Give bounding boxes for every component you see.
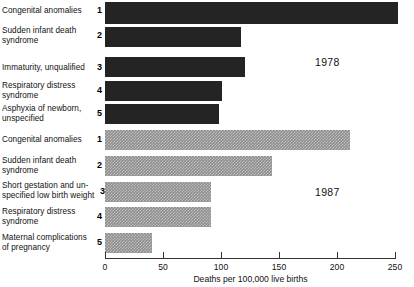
x-tick-0 [105,252,106,258]
rank-number-1987-3: 3 [95,186,105,196]
x-tick-150 [279,252,280,258]
category-label-1987-1: Congenital anomalies [2,135,90,145]
bar-1987-3 [105,182,211,202]
bar-1978-1 [105,2,398,24]
rank-number-1978-1: 1 [92,5,102,15]
rank-number-1978-4: 4 [92,85,102,95]
x-tick-label-100: 100 [206,262,236,272]
category-label-line: Maternal complications [2,233,90,243]
bar-1978-2 [105,27,241,47]
bar-1978-4 [105,81,222,101]
category-label-line: Short gestation and un- [2,181,97,191]
category-label-line: of pregnancy [2,243,90,253]
x-tick-200 [337,252,338,258]
category-label-1978-3: Immaturity, unqualified [2,63,90,73]
category-label-line: Sudden infant death [2,26,90,36]
rank-number-1987-2: 2 [92,160,102,170]
x-tick-100 [221,252,222,258]
category-label-1987-4: Respiratory distress syndrome [2,207,90,226]
x-tick-label-0: 0 [90,262,120,272]
x-tick-label-150: 150 [264,262,294,272]
category-label-line: Congenital anomalies [2,135,90,145]
rank-number-1987-5: 5 [92,237,102,247]
bar-1978-5 [105,104,219,124]
category-label-line: Respiratory distress [2,81,90,91]
category-label-line: syndrome [2,36,90,46]
year-annotation-1978: 1978 [315,56,340,68]
category-label-line: syndrome [2,166,90,176]
bar-1987-4 [105,207,211,227]
category-label-1978-1: Congenital anomalies [2,6,90,16]
x-axis-line [105,258,396,259]
category-label-1987-5: Maternal complications of pregnancy [2,233,90,252]
category-label-line: syndrome [2,217,90,227]
x-tick-label-50: 50 [148,262,178,272]
rank-number-1978-3: 3 [92,62,102,72]
bar-chart: Congenital anomalies 1 Sudden infant dea… [0,0,414,287]
x-tick-label-250: 250 [380,262,410,272]
category-label-line: specified low birth weight [2,191,97,201]
category-label-1978-4: Respiratory distress syndrome [2,81,90,100]
bar-1978-3 [105,57,245,77]
category-label-line: syndrome [2,91,90,101]
year-annotation-1987: 1987 [315,186,340,198]
bar-1987-2 [105,156,272,176]
category-label-line: Asphyxia of newborn, [2,104,90,114]
rank-number-1978-5: 5 [92,108,102,118]
category-label-1978-5: Asphyxia of newborn, unspecified [2,104,90,123]
x-tick-250 [395,252,396,258]
category-label-line: Sudden infant death [2,156,90,166]
category-label-line: Respiratory distress [2,207,90,217]
category-label-1978-2: Sudden infant death syndrome [2,26,90,45]
bar-1987-5 [105,233,152,253]
category-label-line: Immaturity, unqualified [2,63,90,73]
x-tick-50 [163,252,164,258]
bar-1987-1 [105,130,350,150]
rank-number-1978-2: 2 [92,30,102,40]
category-label-1987-3: Short gestation and un- specified low bi… [2,181,97,200]
category-label-1987-2: Sudden infant death syndrome [2,156,90,175]
category-label-line: unspecified [2,114,90,124]
x-axis-title: Deaths per 100,000 live births [105,274,396,284]
rank-number-1987-4: 4 [92,211,102,221]
x-tick-label-200: 200 [322,262,352,272]
rank-number-1987-1: 1 [92,134,102,144]
category-label-line: Congenital anomalies [2,6,90,16]
